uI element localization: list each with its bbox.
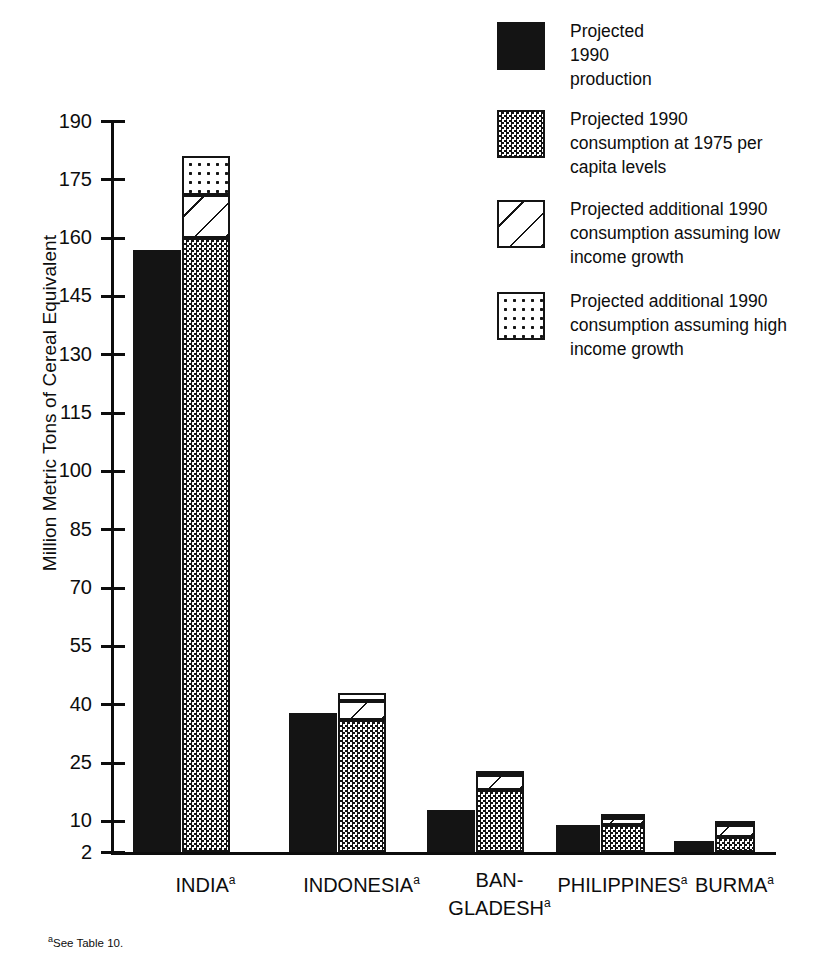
- legend-item-2[interactable]: Projected 1990consumption at 1975 percap…: [497, 110, 823, 190]
- segment-additional-high-income-growth: [476, 771, 524, 775]
- y-axis-tick-label: 175: [0, 169, 92, 189]
- hatch-swatch: [497, 200, 545, 248]
- segment-consumption-1975-per-capita: [338, 720, 386, 852]
- y-axis-tick-label: 10: [0, 810, 92, 830]
- y-axis-tick-label: 190: [0, 111, 92, 131]
- segment-projected-production: [133, 250, 181, 853]
- segment-additional-low-income-growth: [476, 775, 524, 791]
- legend-item-4[interactable]: Projected additional 1990consumption ass…: [497, 292, 823, 372]
- legend-label: Projected1990production: [570, 19, 822, 91]
- y-axis-tick: [101, 295, 125, 298]
- checker-swatch: [497, 110, 545, 158]
- bar-chart-figure: Million Metric Tons of Cereal Equivalent…: [0, 0, 823, 970]
- y-axis-tick-label: 85: [0, 519, 92, 539]
- legend-item-3[interactable]: Projected additional 1990consumption ass…: [497, 200, 823, 280]
- y-axis-tick: [101, 703, 125, 706]
- y-axis-tick-label: 115: [0, 402, 92, 422]
- legend-item-1[interactable]: Projected1990production: [497, 22, 823, 102]
- segment-additional-low-income-growth: [601, 818, 645, 826]
- segment-consumption-1975-per-capita: [476, 790, 524, 852]
- y-axis-tick-label: 25: [0, 752, 92, 772]
- y-axis-tick: [101, 851, 125, 854]
- segment-additional-high-income-growth: [601, 814, 645, 818]
- segment-additional-low-income-growth: [715, 825, 755, 837]
- y-axis-tick: [101, 120, 125, 123]
- y-axis-tick-label: 100: [0, 460, 92, 480]
- y-axis-tick: [101, 412, 125, 415]
- segment-additional-high-income-growth: [715, 821, 755, 825]
- y-axis-tick-label: 40: [0, 694, 92, 714]
- legend-label: Projected 1990consumption at 1975 percap…: [570, 107, 822, 179]
- solid-black-swatch: [497, 22, 545, 70]
- dots-swatch: [497, 292, 545, 340]
- segment-projected-production: [556, 825, 600, 852]
- y-axis-tick: [101, 762, 125, 765]
- segment-projected-production: [427, 810, 475, 853]
- segment-consumption-1975-per-capita: [601, 825, 645, 852]
- y-axis-tick-label: 145: [0, 285, 92, 305]
- segment-consumption-1975-per-capita: [182, 238, 230, 852]
- footnote-text: See Table 10.: [53, 937, 123, 949]
- y-axis-tick: [101, 237, 125, 240]
- y-axis-tick: [101, 353, 125, 356]
- segment-additional-high-income-growth: [338, 693, 386, 701]
- x-axis-label-burma: BURMAa: [625, 869, 823, 897]
- legend-label: Projected additional 1990consumption ass…: [570, 197, 822, 269]
- y-axis-tick: [101, 528, 125, 531]
- segment-consumption-1975-per-capita: [715, 837, 755, 853]
- footnote: aSee Table 10.: [48, 934, 123, 949]
- y-axis-tick-label: 2: [0, 842, 92, 862]
- y-axis-tick: [101, 820, 125, 823]
- y-axis-line: [111, 120, 114, 855]
- y-axis-tick: [101, 587, 125, 590]
- segment-projected-production: [289, 713, 337, 853]
- y-axis-tick: [101, 178, 125, 181]
- y-axis-tick-label: 160: [0, 227, 92, 247]
- segment-additional-low-income-growth: [182, 195, 230, 238]
- y-axis-tick-label: 55: [0, 635, 92, 655]
- segment-additional-high-income-growth: [182, 156, 230, 195]
- legend-label: Projected additional 1990consumption ass…: [570, 289, 822, 361]
- y-axis-tick-label: 130: [0, 344, 92, 364]
- y-axis-tick-label: 70: [0, 577, 92, 597]
- y-axis-tick: [101, 645, 125, 648]
- segment-projected-production: [674, 841, 714, 853]
- y-axis-tick: [101, 470, 125, 473]
- segment-additional-low-income-growth: [338, 701, 386, 720]
